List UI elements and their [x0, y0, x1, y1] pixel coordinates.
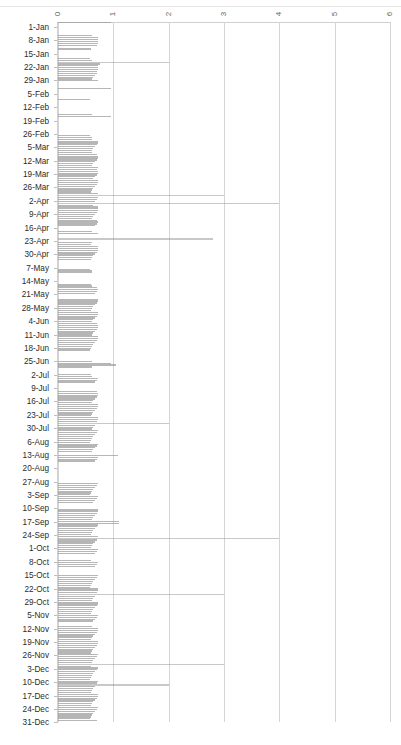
bar — [58, 225, 95, 226]
bar — [58, 80, 98, 81]
y-tick-label: 11-Jun — [25, 331, 49, 340]
y-tick-label: 8-Oct — [29, 558, 49, 567]
y-tick-label: 19-Feb — [23, 117, 49, 126]
y-tick-label: 6-Aug — [27, 438, 49, 447]
y-tick-label: 4-Jun — [29, 317, 49, 326]
bar — [58, 381, 95, 382]
y-tick-label: 21-May — [22, 290, 49, 299]
y-tick-label: 30-Apr — [24, 250, 49, 259]
bar — [58, 238, 213, 239]
y-tick-label: 3-Sep — [27, 491, 49, 500]
x-tick-label-2: 2 — [163, 8, 175, 20]
gridline-6 — [390, 22, 391, 722]
y-tick-label: 1-Jan — [29, 23, 49, 32]
y-tick-label: 26-Feb — [23, 130, 49, 139]
y-tick-label: 5-Feb — [28, 90, 49, 99]
y-tick-label: 23-Jul — [27, 411, 49, 420]
y-tick-label: 18-Jun — [24, 344, 49, 353]
plot-area — [58, 22, 390, 722]
bar — [58, 566, 95, 567]
y-tick-label: 19-Nov — [23, 638, 49, 647]
y-tick-label: 1-Oct — [29, 544, 49, 553]
y-tick-label: 22-Jan — [24, 63, 49, 72]
bar — [58, 259, 91, 260]
y-tick-label: 10-Dec — [23, 678, 49, 687]
bar-chart: 0123456 1-Jan8-Jan15-Jan22-Jan29-Jan5-Fe… — [0, 0, 401, 745]
bar — [58, 272, 92, 273]
y-tick-label: 24-Sep — [23, 531, 49, 540]
bar — [58, 99, 90, 100]
y-tick-label: 15-Oct — [24, 571, 49, 580]
y-tick-label: 30-Jul — [27, 424, 49, 433]
y-tick-label: 23-Apr — [24, 237, 49, 246]
y-tick-label: 10-Sep — [23, 504, 49, 513]
y-tick-label: 3-Dec — [27, 665, 49, 674]
bar — [58, 366, 92, 367]
y-tick-mark — [54, 722, 58, 723]
y-tick-label: 17-Sep — [23, 518, 49, 527]
y-tick-label: 26-Mar — [23, 183, 49, 192]
bar — [58, 116, 111, 117]
x-tick-label-3: 3 — [218, 8, 230, 20]
y-tick-label: 27-Aug — [23, 478, 49, 487]
bar-series — [58, 22, 390, 722]
y-tick-label: 19-Mar — [23, 170, 49, 179]
y-tick-label: 13-Aug — [23, 451, 49, 460]
bar — [58, 502, 93, 503]
y-tick-label: 9-Jul — [31, 384, 49, 393]
bottom-axis-title — [0, 728, 401, 742]
bar — [58, 620, 93, 621]
y-tick-label: 16-Jul — [27, 397, 49, 406]
bar — [58, 48, 91, 49]
bar — [58, 233, 98, 234]
x-tick-label-6: 6 — [384, 8, 396, 20]
bar — [58, 553, 95, 554]
y-tick-label: 24-Dec — [23, 705, 49, 714]
x-tick-label-0: 0 — [52, 8, 64, 20]
y-tick-label: 5-Nov — [27, 611, 49, 620]
y-tick-label: 26-Nov — [23, 651, 49, 660]
x-axis-tick-labels: 0123456 — [0, 8, 401, 22]
y-tick-label: 29-Jan — [24, 76, 49, 85]
y-tick-label: 12-Nov — [23, 625, 49, 634]
x-tick-label-1: 1 — [107, 8, 119, 20]
y-tick-label: 8-Jan — [29, 36, 49, 45]
y-tick-label: 28-May — [22, 304, 49, 313]
y-tick-label: 25-Jun — [24, 357, 49, 366]
bar — [58, 293, 95, 294]
bar — [58, 88, 111, 89]
y-tick-label: 15-Jan — [24, 50, 49, 59]
x-tick-label-4: 4 — [273, 8, 285, 20]
y-tick-label: 29-Oct — [24, 598, 49, 607]
y-tick-label: 5-Mar — [28, 143, 49, 152]
bar — [58, 451, 92, 452]
y-tick-label: 31-Dec — [23, 718, 49, 727]
y-tick-label: 20-Aug — [23, 464, 49, 473]
bar — [58, 460, 95, 461]
bar — [58, 22, 111, 23]
y-tick-label: 12-Mar — [23, 157, 49, 166]
y-tick-label: 2-Apr — [29, 197, 49, 206]
bar — [58, 349, 90, 350]
y-tick-label: 2-Jul — [31, 371, 49, 380]
bar — [58, 720, 97, 721]
x-tick-label-5: 5 — [329, 8, 341, 20]
y-tick-label: 14-May — [22, 277, 49, 286]
bar — [58, 45, 97, 46]
y-tick-label: 16-Apr — [24, 224, 49, 233]
top-rule — [0, 6, 401, 7]
y-tick-label: 9-Apr — [29, 210, 49, 219]
y-tick-label: 22-Oct — [24, 585, 49, 594]
y-tick-label: 17-Dec — [23, 692, 49, 701]
y-axis-tick-labels: 1-Jan8-Jan15-Jan22-Jan29-Jan5-Feb12-Feb1… — [0, 22, 58, 722]
y-tick-label: 7-May — [26, 264, 49, 273]
y-tick-label: 12-Feb — [23, 103, 49, 112]
